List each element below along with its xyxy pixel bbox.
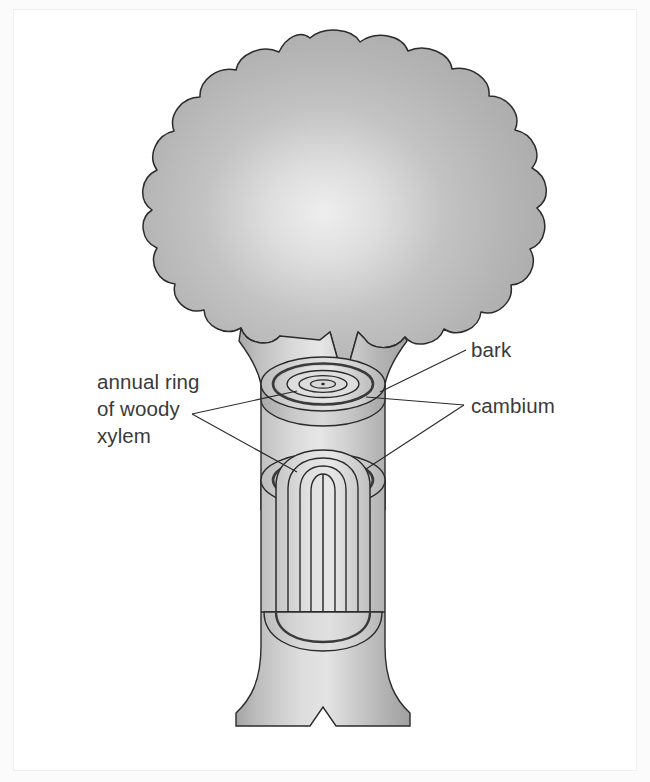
lower-trunk-cutaway <box>236 450 410 726</box>
canopy-shape <box>143 30 547 382</box>
tree-anatomy-diagram: bark cambium annual ring of woody xylem <box>14 10 636 770</box>
label-annual-ring-line3: xylem <box>97 424 151 447</box>
label-bark: bark <box>471 338 512 361</box>
label-annual-ring-line2: of woody <box>97 397 180 420</box>
label-annual-ring-line1: annual ring <box>97 370 200 393</box>
figure-root: bark cambium annual ring of woody xylem <box>0 0 650 782</box>
upper-stump-cut-face <box>261 357 385 426</box>
figure-panel: bark cambium annual ring of woody xylem <box>14 10 636 770</box>
label-cambium: cambium <box>471 394 555 417</box>
tree-canopy <box>143 30 547 382</box>
pith-center <box>321 383 325 385</box>
